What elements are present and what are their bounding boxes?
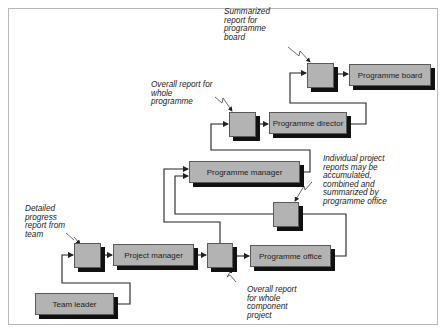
report-point-team-progress	[74, 243, 101, 268]
node-programme-board: Programme board	[349, 64, 431, 86]
annotation-whole-programme: Overall report for whole programme	[151, 81, 212, 107]
annotation-component-project: Overall report for whole component proje…	[247, 286, 297, 320]
report-point-board-summary	[307, 63, 334, 88]
report-point-component-project	[207, 243, 233, 268]
annotation-office-accumulated: Individual project reports may be accumu…	[323, 155, 387, 207]
node-programme-manager: Programme manager	[189, 161, 300, 183]
node-team-leader: Team leader	[35, 293, 114, 315]
report-point-office-accumulated	[273, 202, 299, 227]
node-programme-director: Programme director	[269, 112, 347, 134]
annotation-team-progress: Detailed progress report from team	[25, 205, 65, 239]
node-programme-office: Programme office	[250, 245, 331, 267]
node-project-manager: Project manager	[113, 244, 194, 266]
annotation-board-summary: Summarized report for programme board	[224, 8, 270, 42]
report-point-whole-programme	[229, 112, 256, 137]
